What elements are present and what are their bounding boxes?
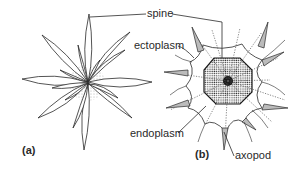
radiolarian-diagram: spine ectoplasm endoplasm axopod (a) (b) — [0, 0, 303, 170]
label-axopod: axopod — [235, 150, 271, 161]
diagram-drawing — [0, 0, 303, 170]
label-ectoplasm: ectoplasm — [134, 40, 184, 51]
label-spine: spine — [147, 8, 173, 19]
panel-label-a: (a) — [22, 145, 35, 156]
label-endoplasm: endoplasm — [130, 128, 184, 139]
panel-label-b: (b) — [195, 149, 209, 160]
